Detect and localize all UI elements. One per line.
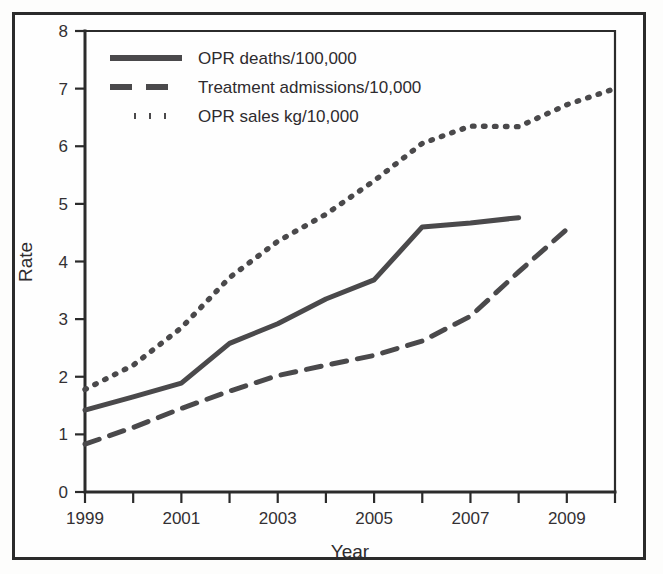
x-axis-ticks: 199920012003200520072009 — [66, 492, 615, 528]
legend-label: Treatment admissions/10,000 — [198, 78, 421, 97]
figure-root: 012345678 199920012003200520072009 OPR d… — [0, 0, 663, 574]
data-series-group — [85, 89, 615, 445]
line-chart: 012345678 199920012003200520072009 OPR d… — [0, 0, 663, 574]
y-tick-label: 6 — [59, 137, 68, 156]
y-tick-label: 7 — [59, 80, 68, 99]
x-axis-title: Year — [331, 541, 370, 562]
y-axis-ticks: 012345678 — [59, 22, 85, 502]
y-axis-title: Rate — [15, 242, 36, 282]
legend-label: OPR sales kg/10,000 — [198, 107, 359, 126]
series-line-solid — [85, 218, 519, 410]
x-tick-label: 2007 — [452, 509, 490, 528]
y-tick-label: 0 — [59, 483, 68, 502]
y-tick-label: 4 — [59, 253, 68, 272]
x-tick-label: 2001 — [162, 509, 200, 528]
y-tick-label: 1 — [59, 425, 68, 444]
x-tick-label: 2003 — [259, 509, 297, 528]
plot-frame — [85, 31, 615, 492]
axis-lines — [85, 31, 615, 492]
series-line-dotted — [85, 89, 615, 390]
legend-label: OPR deaths/100,000 — [198, 49, 357, 68]
series-line-dashed — [85, 229, 567, 444]
plot-area-border — [85, 31, 615, 492]
y-tick-label: 3 — [59, 310, 68, 329]
y-tick-label: 2 — [59, 368, 68, 387]
y-tick-label: 8 — [59, 22, 68, 41]
chart-legend: OPR deaths/100,000Treatment admissions/1… — [110, 49, 421, 126]
x-tick-label: 1999 — [66, 509, 104, 528]
y-tick-label: 5 — [59, 195, 68, 214]
x-tick-label: 2005 — [355, 509, 393, 528]
x-tick-label: 2009 — [548, 509, 586, 528]
